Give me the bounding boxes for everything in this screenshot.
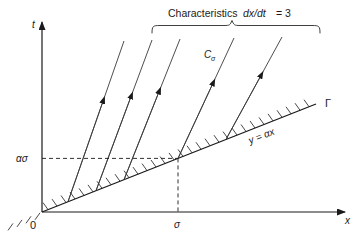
title-equals-three: = 3 [276,7,291,19]
y-axis-label-t: t [32,19,36,30]
origin-label-zero: 0 [30,219,36,231]
boundary-curve-label-gamma: Γ [325,97,331,109]
characteristic-family-subscript-sigma: σ [211,55,216,62]
title-dxdt: dx/dt [243,7,267,19]
characteristics-brace [152,21,320,34]
characteristic-arrow-3 [124,91,160,180]
characteristic-arrow-2 [96,95,132,191]
labels-group: Characteristics dx/dt = 3 t x 0 σ ασ C σ… [16,7,351,231]
y-tick-label-alpha-sigma: ασ [16,153,29,164]
gamma-hatching [43,100,309,210]
characteristic-arrow-1 [68,100,104,202]
characteristic-arrow-5 [226,75,262,140]
axes-group [42,22,345,212]
brace-path [152,21,320,34]
characteristic-lines-group [68,37,282,202]
boundary-curve-gamma [8,100,316,231]
x-axis-label-x: x [344,215,351,226]
characteristics-diagram: Characteristics dx/dt = 3 t x 0 σ ασ C σ… [0,0,361,245]
x-tick-label-sigma: σ [174,219,181,230]
title-characteristics: Characteristics [168,7,237,19]
figure-root: Characteristics dx/dt = 3 t x 0 σ ασ C σ… [0,0,361,245]
boundary-equation-label: y = αx [246,125,277,146]
